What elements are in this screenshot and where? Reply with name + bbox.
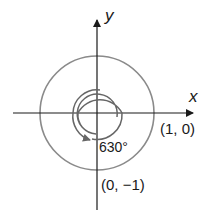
rotation-spiral xyxy=(77,94,122,139)
point-0-neg1-label: (0, −1) xyxy=(101,177,145,192)
x-axis-label: x xyxy=(189,88,198,105)
angle-label: 630° xyxy=(99,140,128,154)
point-1-0-label: (1, 0) xyxy=(160,121,195,136)
unit-circle-diagram: y x (1, 0) 630° (0, −1) xyxy=(0,0,217,221)
y-axis-label: y xyxy=(105,7,114,24)
